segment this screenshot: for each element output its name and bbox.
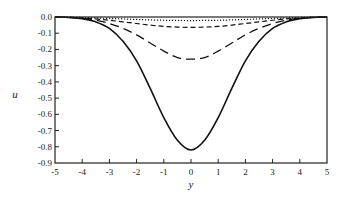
line-chart: -5-4-3-2-1012345 0.0-0.1-0.2-0.3-0.4-0.5… xyxy=(0,0,337,198)
x-tick-label: -4 xyxy=(78,167,86,177)
plot-curves xyxy=(55,17,327,150)
y-tick-label: -0.8 xyxy=(38,142,53,152)
y-tick-label: -0.3 xyxy=(38,61,53,71)
x-tick-label: 0 xyxy=(189,167,194,177)
x-axis-ticks: -5-4-3-2-1012345 xyxy=(51,159,330,177)
y-tick-label: 0.0 xyxy=(41,12,53,22)
x-tick-label: -5 xyxy=(51,167,59,177)
x-tick-label: 3 xyxy=(270,167,275,177)
curve-long-dash xyxy=(55,17,327,59)
x-tick-label: -2 xyxy=(133,167,141,177)
x-tick-label: -3 xyxy=(106,167,114,177)
y-tick-label: -0.7 xyxy=(38,126,53,136)
x-axis-label: y xyxy=(188,178,194,190)
x-tick-label: 1 xyxy=(216,167,221,177)
y-tick-label: -0.2 xyxy=(38,44,52,54)
y-tick-label: -0.1 xyxy=(38,28,52,38)
x-tick-label: 4 xyxy=(298,167,303,177)
curve-solid xyxy=(55,17,327,150)
y-axis-label: u xyxy=(12,88,18,100)
y-tick-label: -0.4 xyxy=(38,77,53,87)
x-tick-label: 5 xyxy=(325,167,330,177)
y-tick-label: -0.6 xyxy=(38,109,53,119)
plot-frame xyxy=(55,17,327,163)
y-tick-label: -0.5 xyxy=(38,93,53,103)
x-tick-label: 2 xyxy=(243,167,248,177)
y-tick-label: -0.9 xyxy=(38,158,53,168)
x-tick-label: -1 xyxy=(160,167,168,177)
y-axis-ticks: 0.0-0.1-0.2-0.3-0.4-0.5-0.6-0.7-0.8-0.9 xyxy=(38,12,59,168)
